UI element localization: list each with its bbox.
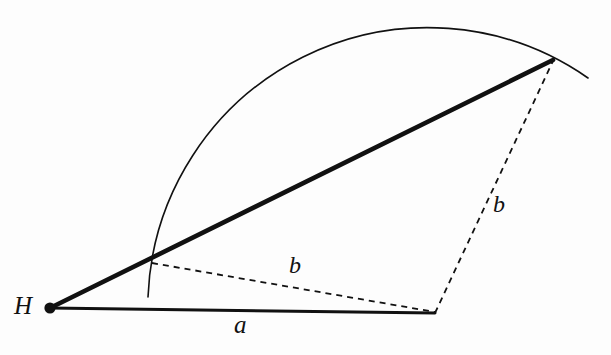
radius-right-b-line [435,61,553,313]
diagram-canvas [0,0,611,355]
label-origin-h: H [14,293,32,318]
geometry-figure: H a b b [0,0,611,355]
label-base-segment-a: a [234,312,247,337]
label-radius-lower-b: b [289,253,301,277]
ray-from-origin [50,60,553,308]
label-radius-right-b: b [493,192,505,216]
circular-arc [148,28,588,297]
origin-dot [44,302,55,313]
